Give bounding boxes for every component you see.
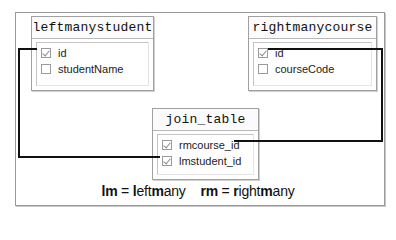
legend: lm = leftmany rm = rightmany: [0, 183, 396, 199]
legend-text: ight: [239, 183, 261, 199]
legend-equals: =: [218, 183, 233, 199]
legend-rm-abbr: rm: [200, 183, 218, 199]
legend-text: eft: [136, 183, 151, 199]
legend-equals: =: [117, 183, 132, 199]
legend-bold-letter: m: [260, 183, 272, 199]
legend-text: any: [273, 183, 295, 199]
legend-bold-letter: m: [151, 183, 163, 199]
legend-text: any: [164, 183, 186, 199]
relationship-line-right[interactable]: [234, 49, 382, 141]
legend-lm-abbr: lm: [101, 183, 117, 199]
relationship-line-left[interactable]: [19, 49, 160, 157]
